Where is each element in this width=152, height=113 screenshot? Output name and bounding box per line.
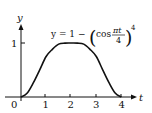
y-axis-arrow-icon <box>19 24 24 30</box>
x-axis-arrow-icon <box>131 95 137 100</box>
x-tick-label-3: 3 <box>93 99 99 110</box>
equation-label: y = 1 − ( cos πt 4 ) 4 <box>50 24 136 48</box>
curve-line <box>21 43 121 97</box>
svg-text:cos: cos <box>96 29 111 39</box>
y-axis-label: y <box>16 12 23 23</box>
svg-text:4: 4 <box>131 24 136 32</box>
svg-text:4: 4 <box>116 36 121 45</box>
origin-label: 0 <box>11 99 17 110</box>
x-tick-label-1: 1 <box>43 99 49 110</box>
x-axis-label: t <box>139 92 144 103</box>
x-tick-label-4: 4 <box>119 99 125 110</box>
svg-text:y = 1 −: y = 1 − <box>50 29 85 39</box>
y-tick-label-1: 1 <box>11 38 17 49</box>
svg-text:πt: πt <box>112 26 122 35</box>
x-tick-label-2: 2 <box>68 99 74 110</box>
chart: 0 1 2 3 4 1 t y y = 1 − ( cos πt 4 ) 4 <box>0 0 152 113</box>
